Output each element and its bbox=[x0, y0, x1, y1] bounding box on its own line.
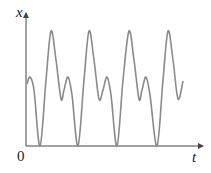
waveform-plot bbox=[0, 0, 211, 173]
y-axis-label: x bbox=[16, 4, 23, 21]
x-axis-label: t bbox=[192, 149, 196, 166]
waveform-curve bbox=[27, 31, 183, 146]
origin-label: 0 bbox=[17, 148, 25, 165]
